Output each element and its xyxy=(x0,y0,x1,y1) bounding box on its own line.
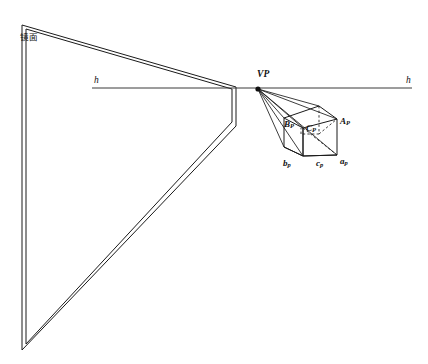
perspective-diagram: 镜面 VP h h BP CP AP bp cp ap xyxy=(0,0,428,364)
mirror-plane-group xyxy=(22,25,236,350)
mirror-plane-inner-outline xyxy=(26,29,232,344)
diagram-canvas xyxy=(0,0,428,364)
ray-to-box-top-mid xyxy=(258,89,319,106)
ray-to-box-top-left xyxy=(258,89,284,118)
box-bottom-front-edge xyxy=(303,155,337,156)
hidden-edge-diagonal-floor xyxy=(303,128,337,155)
vanishing-point-dot xyxy=(255,86,260,91)
box-hidden-edges-group xyxy=(301,106,337,155)
mirror-plane-outer-outline xyxy=(22,25,236,350)
